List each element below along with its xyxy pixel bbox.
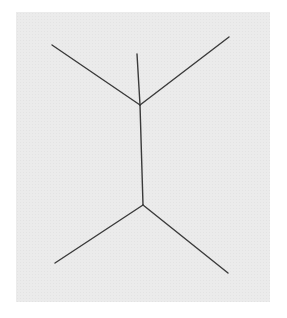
- bottom-left-fin-line: [55, 205, 143, 263]
- top-right-fin-line: [140, 37, 229, 105]
- shaft-main-line: [140, 105, 143, 205]
- top-left-fin-line: [52, 45, 140, 105]
- illusion-figure: [0, 0, 287, 318]
- shaft-line: [137, 54, 140, 105]
- bottom-right-fin-line: [143, 205, 228, 273]
